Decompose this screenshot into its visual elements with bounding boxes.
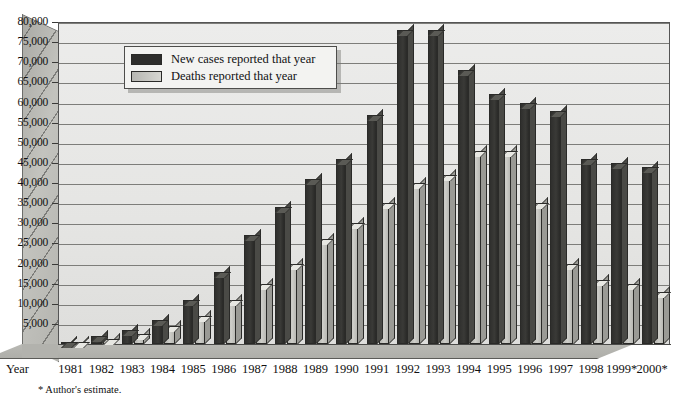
bar-front-face: [397, 30, 408, 344]
y-axis-tick-label: 20,000: [18, 258, 48, 270]
gridline: [59, 23, 669, 24]
y-axis-tick-label: 25,000: [18, 237, 48, 249]
bar-new-cases: [122, 330, 133, 344]
y-axis-tick-label: 45,000: [18, 157, 48, 169]
bar-new-cases: [397, 30, 408, 344]
bar-side-face: [481, 145, 487, 344]
y-axis-tick-mark: [52, 62, 58, 63]
gridline: [59, 244, 669, 245]
bar-side-face: [389, 197, 395, 344]
y-axis-tick-label: 5,000: [23, 318, 48, 330]
y-axis-tick-mark: [52, 42, 58, 43]
bar-new-cases: [244, 235, 255, 344]
bar-new-cases: [550, 111, 561, 344]
dark-swatch-icon: [131, 54, 162, 65]
y-axis-tick-mark: [52, 82, 58, 83]
y-axis-tick-label: 40,000: [18, 177, 48, 189]
bar-front-face: [611, 163, 622, 344]
x-axis-title: Year: [6, 362, 29, 377]
x-axis-tick-label: 1986: [208, 362, 241, 377]
x-axis: Year 19811982198319841985198619871988198…: [0, 362, 690, 382]
x-axis-tick-label: 1981: [55, 362, 88, 377]
bar-front-face: [550, 111, 561, 344]
x-axis-tick-label: 1983: [116, 362, 149, 377]
y-axis-tick-label: 30,000: [18, 217, 48, 229]
x-axis-tick-label: 1988: [269, 362, 302, 377]
gridline: [59, 184, 669, 185]
x-axis-tick-label: 1987: [238, 362, 271, 377]
y-axis-tick-mark: [52, 243, 58, 244]
y-axis-tick-mark: [52, 103, 58, 104]
bar-front-face: [642, 167, 653, 344]
x-axis-tick-label: 1989: [299, 362, 332, 377]
y-axis-tick-mark: [52, 223, 58, 224]
bar-new-cases: [367, 115, 378, 344]
bar-new-cases: [336, 159, 347, 344]
aids-cases-deaths-bar-chart: 5,00010,00015,00020,00025,00030,00035,00…: [0, 0, 690, 411]
bar-front-face: [214, 272, 225, 344]
legend-label-new-cases: New cases reported that year: [171, 53, 315, 66]
x-axis-tick-label: 1992: [391, 362, 424, 377]
x-axis-tick-label: 1995: [483, 362, 516, 377]
x-axis-tick-label: 1994: [452, 362, 485, 377]
y-axis-tick-label: 55,000: [18, 117, 48, 129]
y-axis-tick-label: 75,000: [18, 36, 48, 48]
gridline: [59, 124, 669, 125]
bar-side-face: [511, 145, 517, 344]
legend-item-deaths: Deaths reported that year: [131, 68, 330, 85]
x-axis-tick-label: 1993: [422, 362, 455, 377]
bar-new-cases: [489, 94, 500, 344]
bar-front-face: [244, 235, 255, 344]
x-axis-tick-label: 1985: [177, 362, 210, 377]
y-axis-tick-label: 10,000: [18, 298, 48, 310]
bar-new-cases: [152, 320, 163, 344]
bar-new-cases: [642, 167, 653, 344]
x-axis-tick-label: 1996: [514, 362, 547, 377]
x-axis-baseline: [58, 344, 671, 345]
bar-front-face: [458, 70, 469, 344]
y-axis-tick-label: 50,000: [18, 137, 48, 149]
bar-side-face: [420, 177, 426, 344]
bar-new-cases: [61, 342, 72, 344]
x-axis-tick-label: 1991: [361, 362, 394, 377]
bar-side-face: [450, 169, 456, 344]
chart-footnote: * Author's estimate.: [38, 384, 121, 395]
bar-new-cases: [275, 207, 286, 344]
bar-side-face: [652, 161, 658, 344]
y-axis-tick-label: 60,000: [18, 97, 48, 109]
bar-side-face: [438, 24, 444, 344]
y-axis-tick-label: 65,000: [18, 76, 48, 88]
x-axis-tick-label: 1984: [146, 362, 179, 377]
bar-side-face: [622, 157, 628, 344]
y-axis-tick-mark: [52, 264, 58, 265]
bar-new-cases: [611, 163, 622, 344]
y-axis-tick-mark: [52, 143, 58, 144]
x-axis-tick-label: 1990: [330, 362, 363, 377]
gridline: [59, 164, 669, 165]
light-swatch-icon: [131, 71, 162, 82]
x-axis-tick-label: 1998: [575, 362, 608, 377]
x-axis-tick-label: 2000*: [636, 362, 669, 377]
bar-front-face: [581, 159, 592, 344]
bar-front-face: [367, 115, 378, 344]
chart-floor-3d: [0, 344, 634, 359]
bar-side-face: [328, 233, 334, 344]
bar-front-face: [428, 30, 439, 344]
x-axis-tick-label: 1982: [85, 362, 118, 377]
legend-item-new-cases: New cases reported that year: [131, 51, 330, 68]
y-axis-tick-label: 80,000: [18, 16, 48, 28]
bar-side-face: [346, 153, 352, 344]
bar-new-cases: [91, 336, 102, 344]
gridline: [59, 104, 669, 105]
y-axis: 5,00010,00015,00020,00025,00030,00035,00…: [0, 0, 58, 411]
bar-new-cases: [581, 159, 592, 344]
bar-front-face: [489, 94, 500, 344]
bar-front-face: [305, 179, 316, 344]
gridline: [59, 43, 669, 44]
bar-side-face: [530, 97, 536, 345]
bar-new-cases: [520, 103, 531, 345]
y-axis-tick-mark: [52, 163, 58, 164]
y-axis-tick-mark: [52, 324, 58, 325]
y-axis-tick-mark: [52, 304, 58, 305]
bar-side-face: [377, 109, 383, 344]
